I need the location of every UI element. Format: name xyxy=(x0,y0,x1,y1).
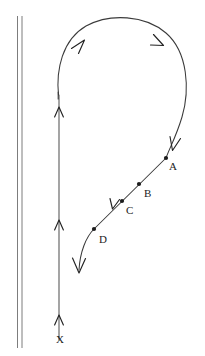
curve-arrowhead-left-ascent xyxy=(72,40,85,54)
diagram-svg xyxy=(0,0,205,356)
vertical-axis-line xyxy=(55,92,64,340)
curve-arrowhead-diagonal xyxy=(110,199,120,210)
point-label-d: D xyxy=(99,234,107,245)
streamline-path xyxy=(58,18,186,270)
streamline-curve xyxy=(58,18,186,273)
point-label-c: C xyxy=(126,205,133,216)
point-dot-a xyxy=(164,156,168,160)
figure-canvas: A B C D X xyxy=(0,0,205,356)
point-label-a: A xyxy=(169,161,177,172)
wall-boundary xyxy=(18,16,23,348)
point-dot-c xyxy=(120,199,124,203)
point-label-b: B xyxy=(144,188,151,199)
point-dot-b xyxy=(137,182,141,186)
curve-arrowhead-right-descent xyxy=(170,137,181,151)
axis-end-label-x: X xyxy=(56,334,64,345)
point-dot-d xyxy=(92,227,96,231)
curve-arrowhead-top-right xyxy=(151,35,164,46)
